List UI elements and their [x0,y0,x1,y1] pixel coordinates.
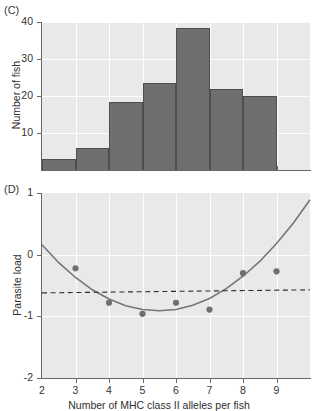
panel-d-y-axis-title: Parasite load [10,192,22,377]
panel-c-y-tick-label: 40 [0,15,33,27]
panel-c-y-tick [37,59,41,60]
panel-c-y-axis-line [41,22,42,170]
panel-d-x-tick-label: 3 [64,384,88,396]
panel-d-plot-area [42,193,310,378]
panel-d-x-tick [176,379,177,383]
panel-c-y-tick-label: 30 [0,52,33,64]
histogram-bar [76,148,110,170]
panel-c-x-tick [277,166,278,170]
histogram-bar [143,83,177,170]
panel-c-y-tick [37,22,41,23]
panel-c-x-axis-line [41,170,311,171]
panel-c-plot-area [42,22,310,170]
panel-d-y-tick-label: 1 [0,186,33,198]
histogram-bar [42,159,76,170]
panel-d-x-tick [277,379,278,383]
histogram-bar [243,96,277,170]
panel-d-x-tick [143,379,144,383]
panel-d-y-tick [37,255,41,256]
gridline-horizontal [42,22,310,23]
panel-d-x-tick-label: 5 [131,384,155,396]
panel-d-x-tick-label: 7 [198,384,222,396]
panel-d-x-tick-label: 8 [231,384,255,396]
panel-d-y-tick [37,378,41,379]
panel-d-x-tick [109,379,110,383]
panel-d-y-tick [37,193,41,194]
panel-d-data-layer [42,193,310,378]
panel-d-x-tick [76,379,77,383]
scatter-point [273,268,279,274]
figure-panels-c-d: (C) (D) Number of fish 10203040 Parasite… [0,0,318,411]
panel-d-x-tick-label: 9 [265,384,289,396]
panel-d-fit-curve [42,200,310,311]
scatter-point [206,306,212,312]
histogram-bar [109,102,143,170]
scatter-point [139,311,145,317]
panel-d-y-tick-label: -2 [0,371,33,383]
panel-c-y-tick [37,133,41,134]
scatter-point [72,265,78,271]
histogram-bar [176,28,210,170]
panel-d-x-tick-label: 2 [30,384,54,396]
panel-d-x-tick-label: 4 [97,384,121,396]
panel-d-y-axis-line [41,193,42,378]
panel-d-x-tick [210,379,211,383]
scatter-point [240,270,246,276]
panel-d-x-axis-title: Number of MHC class II alleles per fish [0,399,318,411]
panel-c-y-tick-label: 10 [0,126,33,138]
panel-d-y-tick [37,316,41,317]
panel-d-y-tick-label: 0 [0,248,33,260]
scatter-point [106,300,112,306]
panel-d-x-tick-label: 6 [164,384,188,396]
panel-c-y-tick-label: 20 [0,89,33,101]
panel-c-y-tick [37,96,41,97]
scatter-point [173,300,179,306]
panel-d-reference-line [42,290,310,293]
panel-d-x-tick [243,379,244,383]
panel-d-y-tick-label: -1 [0,309,33,321]
histogram-bar [210,89,244,170]
